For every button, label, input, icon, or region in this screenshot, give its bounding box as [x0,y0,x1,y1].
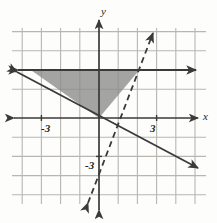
coordinate-plane-graph: y x -3 3 -3 [0,0,217,223]
y-axis-label: y [101,6,106,17]
graph-canvas [0,0,217,223]
x-tick-label-positive-3: 3 [150,123,156,134]
solution-region-shading [31,70,140,118]
y-tick-label-negative-3: -3 [85,160,94,171]
x-tick-label-negative-3: -3 [41,123,50,134]
x-axis-label: x [203,111,208,122]
